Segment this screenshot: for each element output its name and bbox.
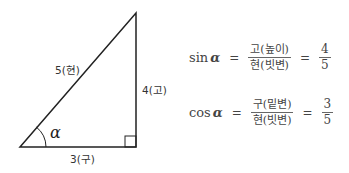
triangle-shape: [20, 13, 136, 147]
sin-ratio-fraction: 고(높이) 현(빗변): [248, 43, 291, 72]
right-angle-marker: [125, 136, 136, 147]
height-label: 4(고): [142, 82, 167, 97]
sin-formula: sinα = 고(높이) 현(빗변) = 4 5: [189, 43, 331, 72]
cos-ratio-fraction: 구(밑변) 현(빗변): [251, 98, 294, 127]
cos-formula: cosα = 구(밑변) 현(빗변) = 3 5: [189, 98, 333, 127]
sin-value-fraction: 4 5: [319, 43, 331, 72]
sin-function: sinα: [189, 50, 220, 65]
cos-function: cosα: [189, 105, 223, 120]
right-triangle-diagram: [0, 0, 349, 173]
angle-alpha-label: α: [50, 123, 61, 142]
hypotenuse-label: 5(현): [55, 62, 80, 77]
cos-value-fraction: 3 5: [322, 98, 334, 127]
base-label: 3(구): [70, 151, 95, 166]
angle-arc: [36, 127, 46, 147]
